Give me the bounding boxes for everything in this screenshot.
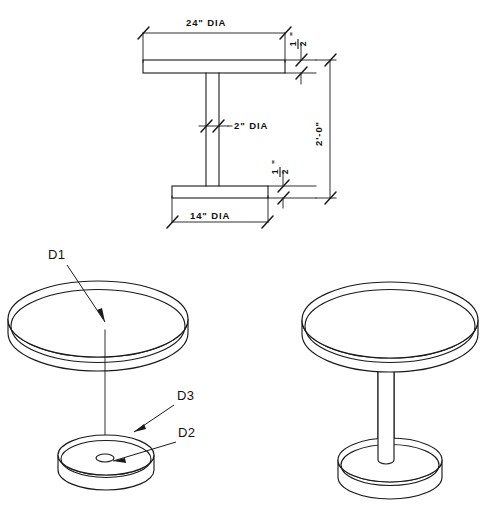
- assembly-column-front: [378, 358, 394, 464]
- table-top-plate: [143, 60, 285, 73]
- dimension-base-diameter: 14" DIA: [167, 196, 273, 228]
- fraction-numerator: 1: [288, 41, 298, 46]
- fraction-one-half-top: 1 2 ": [288, 32, 309, 49]
- dimension-base-thickness: 1 2 ": [268, 160, 316, 208]
- fraction-inch-mark: ": [270, 160, 280, 164]
- dim-label-overall-height: 2'-0": [313, 121, 324, 146]
- dim-label-base-diameter: 14" DIA: [190, 210, 230, 221]
- top-disc-upper-face: [8, 281, 188, 357]
- fraction-numerator: 1: [270, 169, 280, 174]
- callout-label-d3: D3: [177, 388, 194, 403]
- dimension-column-diameter: 2" DIA: [199, 120, 268, 132]
- arrowhead-d3: [134, 424, 146, 432]
- dim-label-top-diameter: 24" DIA: [186, 17, 226, 28]
- cad-drawing-canvas: 24" DIA 1 2 ": [0, 0, 493, 518]
- fraction-one-half-base: 1 2 ": [270, 160, 291, 177]
- base-plate: [172, 186, 268, 198]
- dimension-top-thickness: 1 2 ": [285, 32, 316, 84]
- fraction-denominator: 2: [280, 169, 290, 174]
- drawing-sheet: 24" DIA 1 2 ": [0, 0, 493, 518]
- dimension-top-diameter: 24" DIA: [138, 17, 291, 62]
- exploded-isometric-view: D1 D3 D2: [8, 247, 195, 490]
- assembly-top-upper-face: [302, 282, 478, 358]
- front-elevation-view: 24" DIA 1 2 ": [138, 17, 336, 228]
- base-center-hole: [96, 454, 114, 462]
- assembled-isometric-view: [302, 282, 478, 499]
- dim-label-column-diameter: 2" DIA: [234, 120, 268, 131]
- callout-label-d1: D1: [48, 247, 65, 262]
- fraction-inch-mark: ": [288, 32, 298, 36]
- callout-label-d2: D2: [178, 425, 195, 440]
- fraction-denominator: 2: [298, 41, 308, 46]
- dimension-overall-height: 2'-0": [313, 54, 336, 204]
- callout-leader-d3: [134, 405, 174, 432]
